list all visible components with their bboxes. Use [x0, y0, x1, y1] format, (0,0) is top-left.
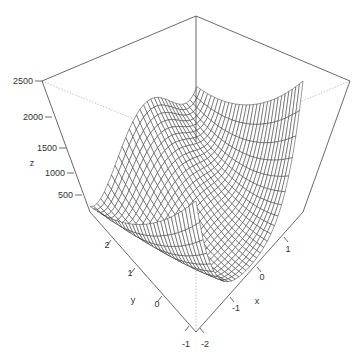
- x-axis-label: x: [255, 296, 260, 306]
- x-tick-label: 1: [285, 244, 290, 254]
- tick-mark: [185, 326, 189, 331]
- y-tick-label: 1: [127, 268, 132, 278]
- y-tick-label: -1: [182, 339, 190, 349]
- tick-mark: [230, 297, 234, 302]
- z-tick-label: 1500: [37, 143, 57, 153]
- z-tick-label: 2500: [13, 76, 33, 86]
- surface-plot: 2500200015001000500z210-1y-2-101x: [0, 0, 360, 364]
- tick-mark: [200, 328, 204, 333]
- tick-mark: [284, 237, 288, 242]
- y-tick-label: 0: [154, 299, 159, 309]
- x-tick-label: -2: [201, 339, 209, 349]
- x-tick-label: -1: [232, 303, 240, 313]
- y-tick-label: 2: [104, 240, 109, 250]
- z-tick-label: 500: [58, 190, 73, 200]
- z-axis-label: z: [30, 158, 35, 168]
- x-tick-label: 0: [259, 272, 264, 282]
- z-tick-label: 2000: [23, 112, 43, 122]
- surface-mesh: [90, 81, 303, 282]
- y-axis-label: y: [131, 295, 136, 305]
- z-tick-label: 1000: [45, 168, 65, 178]
